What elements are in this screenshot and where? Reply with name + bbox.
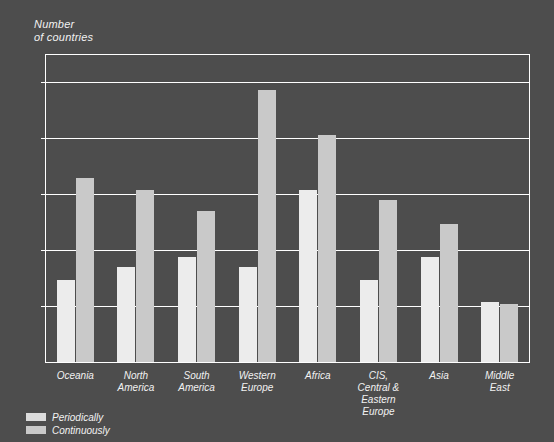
bar-continuously xyxy=(440,224,458,362)
bar-continuously xyxy=(76,178,94,362)
chart-legend: PeriodicallyContinuously xyxy=(26,411,110,437)
x-axis-label: South America xyxy=(166,370,227,394)
bar-periodically xyxy=(299,190,317,362)
legend-item: Continuously xyxy=(26,424,110,436)
x-axis-label: North America xyxy=(106,370,167,394)
bar-periodically xyxy=(360,280,378,362)
x-axis-label: Oceania xyxy=(45,370,106,382)
x-axis-label: Middle East xyxy=(469,370,530,394)
x-axis-line xyxy=(45,362,530,363)
bar-continuously xyxy=(379,200,397,362)
legend-swatch-periodically xyxy=(26,413,46,421)
x-axis-label: Western Europe xyxy=(227,370,288,394)
x-axis-label: CIS, Central & Eastern Europe xyxy=(348,370,409,418)
bar-continuously xyxy=(136,190,154,362)
bar-periodically xyxy=(178,257,196,362)
bar-continuously xyxy=(258,90,276,362)
legend-swatch-continuously xyxy=(26,426,46,434)
x-axis-label: Asia xyxy=(409,370,470,382)
bar-continuously xyxy=(500,304,518,362)
bar-continuously xyxy=(197,211,215,362)
bar-periodically xyxy=(239,267,257,362)
plot-area xyxy=(45,54,530,362)
bar-periodically xyxy=(481,302,499,362)
bar-continuously xyxy=(318,135,336,362)
bar-chart: Number of countries 510152025 OceaniaNor… xyxy=(0,0,554,442)
legend-label: Continuously xyxy=(52,425,110,436)
bar-periodically xyxy=(117,267,135,362)
legend-label: Periodically xyxy=(52,412,103,423)
bar-periodically xyxy=(421,257,439,362)
x-axis-label: Africa xyxy=(288,370,349,382)
bar-periodically xyxy=(57,280,75,362)
y-axis-title: Number of countries xyxy=(34,18,93,44)
legend-item: Periodically xyxy=(26,411,110,423)
